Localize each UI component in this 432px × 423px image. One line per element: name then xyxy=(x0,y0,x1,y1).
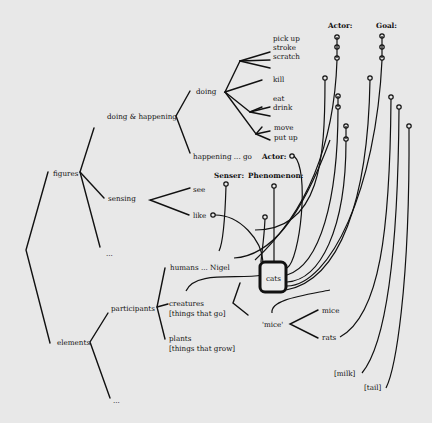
label-doing-happening: doing & happening xyxy=(107,112,177,121)
label-kill: kill xyxy=(273,75,285,84)
label-senser: Senser: xyxy=(214,171,244,180)
label-phenomenon: Phenomenon: xyxy=(248,171,303,180)
label-cats: cats xyxy=(266,274,281,283)
label-pick-up: pick up xyxy=(273,34,300,43)
label-figures: figures xyxy=(53,169,79,178)
label-elements-other: ... xyxy=(113,396,120,405)
verb-labels: pick up stroke scratch kill eat drink mo… xyxy=(273,34,300,142)
label-happening: happening ... go xyxy=(193,152,252,161)
tree-labels: figures doing & happening doing happenin… xyxy=(53,87,382,405)
label-participants: participants xyxy=(111,304,155,313)
label-scratch: scratch xyxy=(273,52,300,61)
label-plants: plants xyxy=(169,334,192,343)
label-milk: [milk] xyxy=(334,369,356,378)
label-eat: eat xyxy=(273,94,285,103)
label-move: move xyxy=(274,123,293,132)
label-creatures: creatures xyxy=(169,299,204,308)
label-rats: rats xyxy=(322,333,337,342)
label-actor-top: Actor: xyxy=(327,21,353,30)
systemic-network-diagram: figures doing & happening doing happenin… xyxy=(0,0,432,423)
label-doing: doing xyxy=(196,87,217,96)
label-mice-class: 'mice' xyxy=(262,320,283,329)
label-mice: mice xyxy=(322,306,339,315)
role-links xyxy=(186,34,411,388)
label-figures-other: ... xyxy=(106,249,113,258)
label-tail: [tail] xyxy=(364,383,382,392)
label-see: see xyxy=(193,185,205,194)
label-put-up: put up xyxy=(274,133,298,142)
label-elements: elements xyxy=(57,338,90,347)
label-goal-top: Goal: xyxy=(376,21,397,30)
label-sensing: sensing xyxy=(108,194,136,203)
label-humans: humans ... Nigel xyxy=(170,263,231,272)
label-like: like xyxy=(193,211,206,220)
label-drink: drink xyxy=(273,103,293,112)
label-actor-happening: Actor: xyxy=(261,152,287,161)
label-plants-gloss: [things that grow] xyxy=(169,344,235,353)
label-creatures-gloss: [things that go] xyxy=(169,309,226,318)
label-stroke: stroke xyxy=(273,43,296,52)
